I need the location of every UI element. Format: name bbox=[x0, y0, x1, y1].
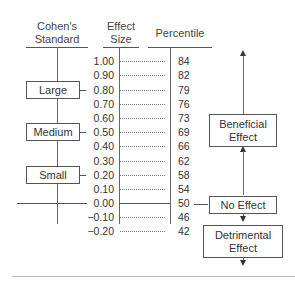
dotted-connector bbox=[120, 175, 165, 176]
effect-size-value: 0.40 bbox=[74, 140, 114, 152]
effect-size-value: 1.00 bbox=[74, 55, 114, 67]
percentile-value: 79 bbox=[178, 84, 190, 96]
percentile-value: 76 bbox=[178, 98, 190, 110]
no-effect-box: No Effect bbox=[209, 196, 277, 214]
medium-box: Medium bbox=[26, 123, 80, 141]
percentile-value: 73 bbox=[178, 112, 190, 124]
percentile-value: 42 bbox=[178, 225, 190, 237]
beneficial-label-line2: Effect bbox=[229, 131, 257, 144]
large-box: Large bbox=[26, 81, 80, 99]
effect-size-value: 0.60 bbox=[74, 112, 114, 124]
effect-header-line2: Size bbox=[103, 33, 139, 46]
effect-size-value: 0.90 bbox=[74, 69, 114, 81]
dotted-connector bbox=[120, 132, 165, 133]
dotted-connector bbox=[120, 90, 165, 91]
cohens-standard-header: Cohen's Standard bbox=[26, 20, 88, 46]
effect-header-line1: Effect bbox=[103, 20, 139, 33]
percentile-axis bbox=[170, 47, 171, 224]
percentile-header: Percentile bbox=[148, 27, 212, 40]
cohens-header-line2: Standard bbox=[26, 33, 88, 46]
beneficial-arrow-line-top bbox=[243, 55, 244, 114]
effect-size-value: −0.20 bbox=[74, 225, 114, 237]
percentile-value: 54 bbox=[178, 183, 190, 195]
zero-baseline-mid bbox=[119, 203, 170, 204]
large-label: Large bbox=[39, 84, 67, 97]
small-label: Small bbox=[39, 169, 67, 182]
effect-header-underline bbox=[103, 47, 139, 48]
dotted-connector bbox=[120, 189, 165, 190]
beneficial-label-line1: Beneficial bbox=[219, 118, 267, 131]
bottom-rule bbox=[12, 276, 295, 277]
small-tick bbox=[79, 175, 86, 176]
effect-size-value: 0.70 bbox=[74, 98, 114, 110]
dotted-connector bbox=[120, 217, 165, 218]
detrimental-effect-box: Detrimental Effect bbox=[203, 225, 283, 258]
beneficial-arrow-line-bottom bbox=[243, 151, 244, 195]
arrow-down-icon bbox=[240, 216, 246, 222]
effect-size-value: 0.30 bbox=[74, 155, 114, 167]
detrimental-label-line2: Effect bbox=[229, 242, 257, 255]
cohens-header-line1: Cohen's bbox=[26, 20, 88, 33]
percentile-value: 84 bbox=[178, 55, 190, 67]
dotted-connector bbox=[120, 161, 165, 162]
percentile-value: 46 bbox=[178, 211, 190, 223]
percentile-value: 62 bbox=[178, 155, 190, 167]
percentile-value: 69 bbox=[178, 126, 190, 138]
effect-size-axis bbox=[119, 47, 120, 224]
percentile-value: 50 bbox=[178, 197, 190, 209]
medium-tick bbox=[79, 132, 86, 133]
detrimental-label-line1: Detrimental bbox=[215, 229, 271, 242]
dotted-connector bbox=[120, 118, 165, 119]
effect-size-value: −0.10 bbox=[74, 211, 114, 223]
dotted-connector bbox=[120, 231, 165, 232]
percentile-header-underline bbox=[148, 47, 212, 48]
percentile-value: 58 bbox=[178, 169, 190, 181]
arrow-down-icon bbox=[240, 260, 246, 266]
dotted-connector bbox=[120, 146, 165, 147]
dotted-connector bbox=[120, 61, 165, 62]
dotted-connector bbox=[120, 75, 165, 76]
percentile-value: 66 bbox=[178, 140, 190, 152]
beneficial-effect-box: Beneficial Effect bbox=[209, 114, 277, 147]
dotted-connector bbox=[120, 104, 165, 105]
effect-size-header: Effect Size bbox=[103, 20, 139, 46]
percentile-value: 82 bbox=[178, 69, 190, 81]
no-effect-tick bbox=[194, 204, 208, 205]
effect-size-value: 0.10 bbox=[74, 183, 114, 195]
large-tick bbox=[79, 90, 86, 91]
effect-size-value: 0.00 bbox=[74, 197, 114, 209]
no-effect-label: No Effect bbox=[220, 199, 265, 212]
small-box: Small bbox=[26, 166, 80, 184]
medium-label: Medium bbox=[33, 126, 72, 139]
